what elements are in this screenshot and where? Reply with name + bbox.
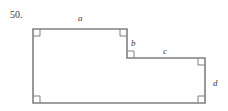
side-label-b: b [131, 39, 136, 48]
right-angle-bottom-left [33, 96, 40, 103]
right-angle-step-right [198, 58, 205, 65]
side-label-d: d [213, 79, 218, 88]
right-angle-step-inner [127, 51, 134, 58]
side-label-a: a [78, 14, 83, 23]
staircase-polygon-drawing [0, 0, 228, 111]
right-angle-top-right [120, 29, 127, 36]
polygon-outline-path [33, 29, 205, 103]
right-angle-top-left [33, 29, 40, 36]
geometry-figure-container: 50. a b c d [0, 0, 228, 111]
right-angle-bottom-right [198, 96, 205, 103]
right-angle-markers-group [33, 29, 205, 103]
side-label-c: c [163, 47, 167, 56]
